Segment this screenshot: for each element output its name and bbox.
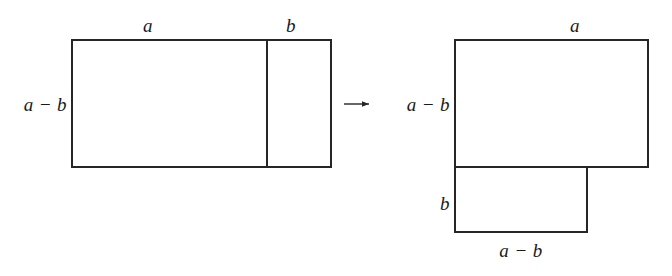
right-side-label-a-minus-b: a − b: [407, 95, 450, 114]
left-side-label-a-minus-b: a − b: [24, 95, 67, 114]
left-rectangle-outline: [72, 40, 331, 167]
right-side-label-b: b: [440, 194, 450, 213]
right-upper-rectangle: [455, 40, 648, 167]
right-bottom-label-a-minus-b: a − b: [499, 241, 542, 260]
geometric-proof-figure: a b a − b a a − b b a − b: [0, 0, 672, 276]
left-top-label-a: a: [143, 16, 153, 35]
right-lower-rectangle: [455, 167, 587, 232]
right-top-label-a: a: [570, 16, 580, 35]
transformation-arrow-icon: [344, 101, 369, 107]
left-figure-group: [72, 40, 331, 167]
right-figure-group: [455, 40, 648, 232]
left-top-label-b: b: [286, 16, 296, 35]
diagram-canvas: [0, 0, 672, 276]
